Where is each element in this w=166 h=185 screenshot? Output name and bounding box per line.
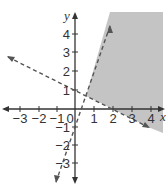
y-tick-label: 1 [63, 83, 70, 98]
y-tick-label: 3 [63, 45, 70, 60]
x-tick-label: 4 [147, 111, 154, 126]
x-tick-label: 2 [109, 111, 116, 126]
y-tick-label: 4 [63, 27, 70, 42]
y-tick-label: −3 [55, 156, 70, 171]
x-axis-label: x [159, 109, 166, 124]
x-tick-labels: −3 −2 −1 0 1 2 3 4 [13, 111, 155, 126]
x-tick-label: −2 [32, 111, 47, 126]
y-axis-label: y [62, 8, 70, 23]
y-axis [72, 12, 78, 184]
inequality-graph: −3 −2 −1 0 1 2 3 4 4 3 2 1 −2 −3 −1 y x [0, 0, 166, 185]
y-tick-label: −2 [55, 138, 70, 153]
x-axis-left-arrow-icon [2, 106, 9, 112]
x-tick-label: 1 [90, 111, 97, 126]
line-b-arrow-down-icon [54, 175, 60, 183]
y-axis-up-arrow-icon [72, 12, 78, 19]
x-tick-label: −3 [13, 111, 28, 126]
y-tick-label: −1 [55, 120, 70, 135]
line-a-arrow-left-icon [7, 56, 15, 62]
y-tick-labels: 4 3 2 1 −2 −3 −1 [55, 27, 70, 171]
y-tick-label: 2 [63, 64, 70, 79]
y-axis-down-arrow-icon [72, 177, 78, 184]
x-tick-label: 3 [128, 111, 135, 126]
